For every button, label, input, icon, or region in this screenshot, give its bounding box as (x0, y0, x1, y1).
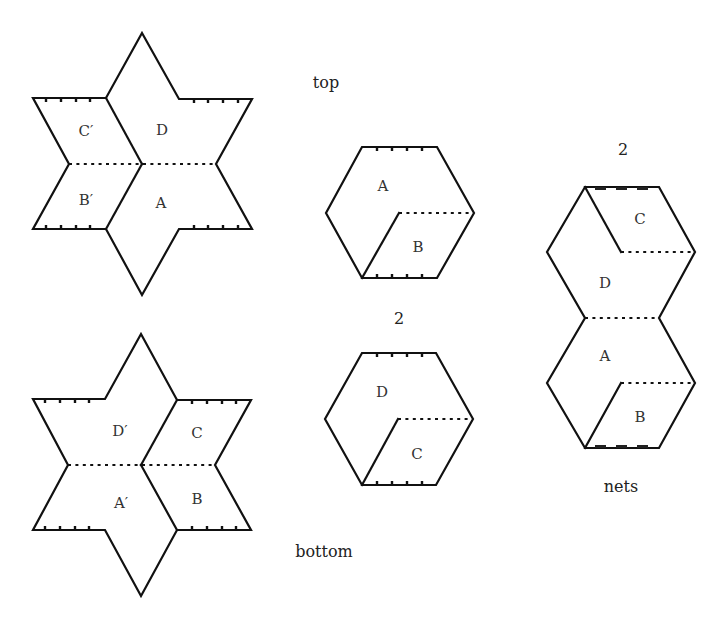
top-star-label-upper-right: D (156, 121, 168, 139)
caption-nets: nets (604, 477, 638, 496)
hexagon-2-label-upper: D (376, 383, 388, 401)
top-star-label-lower-left: B′ (79, 191, 94, 209)
caption-top: top (313, 73, 339, 92)
bottom-star-label-lower-right: B (191, 490, 202, 508)
net-label-lower: A (599, 347, 611, 365)
top-star-label-lower-right: A (155, 194, 167, 212)
top-star-label-upper-left: C′ (79, 122, 94, 140)
bottom-star-label-upper-left: D′ (112, 422, 128, 440)
net: C D A B (547, 187, 695, 448)
bottom-star: D′ C A′ B (33, 334, 251, 596)
caption-net-count: 2 (618, 140, 628, 159)
hexagon-2: D C (325, 353, 473, 485)
hexagon-1-label-upper: A (377, 177, 389, 195)
bottom-star-label-upper-right: C (191, 424, 202, 442)
diagram-canvas: C′ D B′ A D′ C A′ B top bottom 2 2 nets (0, 0, 719, 631)
bottom-star-label-lower-left: A′ (113, 494, 129, 512)
caption-bottom: bottom (295, 542, 353, 561)
net-label-bottom: B (634, 408, 645, 426)
net-label-top: C (634, 210, 645, 228)
hexagon-1: A B (326, 147, 474, 278)
hexagon-1-label-lower: B (412, 238, 423, 256)
caption-hex-count: 2 (394, 309, 404, 328)
hexagon-2-label-lower: C (411, 445, 422, 463)
net-outline (547, 187, 695, 448)
top-star: C′ D B′ A (33, 33, 252, 295)
net-label-upper: D (599, 274, 611, 292)
